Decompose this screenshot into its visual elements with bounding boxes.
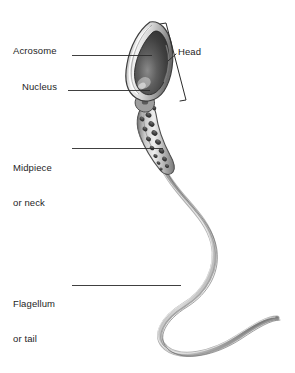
label-head: Head [178, 46, 201, 58]
midpiece-structure [137, 104, 174, 175]
label-acrosome: Acrosome [13, 45, 57, 57]
flagellum-structure [158, 168, 280, 356]
label-midpiece-line1: Midpiece [13, 162, 52, 174]
head-structure [126, 22, 173, 101]
label-midpiece: Midpiece or neck [13, 139, 52, 220]
label-flagellum-line1: Flagellum [13, 298, 55, 310]
label-flagellum-line2: or tail [13, 333, 55, 345]
label-nucleus: Nucleus [22, 81, 57, 93]
label-flagellum: Flagellum or tail [13, 275, 55, 356]
label-midpiece-line2: or neck [13, 197, 52, 209]
